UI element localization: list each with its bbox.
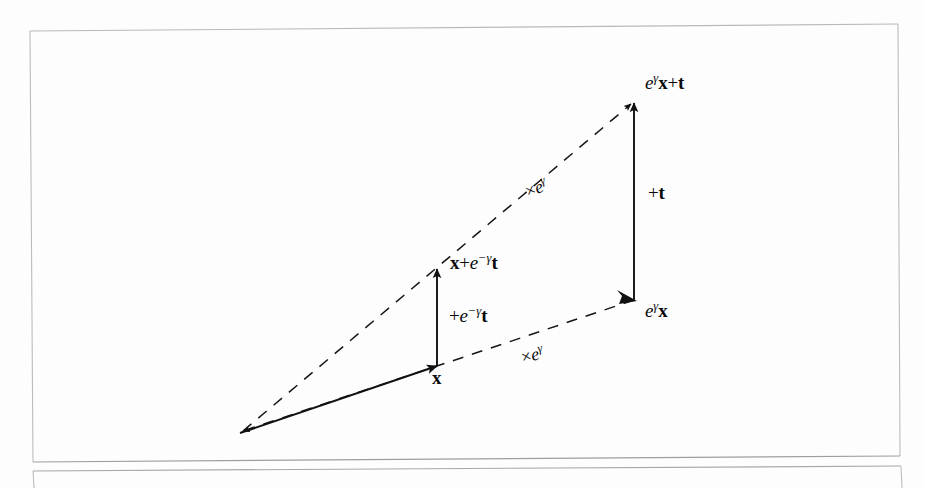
label-small-neg-gamma: −γ: [468, 304, 481, 318]
label-e-gamma-x: eγx: [645, 300, 668, 320]
label-small-plus: +: [449, 305, 460, 326]
label-final-t: t: [678, 72, 684, 93]
label-xt-plus: +: [459, 252, 470, 273]
label-final-e: e: [645, 72, 653, 93]
label-small-t: t: [481, 305, 487, 326]
label-plus-e-neg-gamma-t: +e−γt: [449, 305, 487, 325]
label-x: x: [432, 368, 441, 387]
label-small-e: e: [460, 305, 468, 326]
label-final-plus: +: [668, 72, 679, 93]
label-plus-t: +t: [648, 183, 665, 202]
label-xt-t: t: [491, 252, 497, 273]
label-e-gamma-x-plus-t: eγx+t: [645, 72, 684, 92]
label-xt-x: x: [450, 252, 459, 273]
figure-page: x eγx x+e−γt eγx+t +e−γt +t ×eγ ×eγ: [0, 0, 925, 488]
label-xt-e: e: [470, 252, 478, 273]
label-times-e-gamma-lower: ×eγ: [519, 343, 545, 367]
label-plus-t-t: t: [659, 182, 665, 203]
frame-left-rule: [30, 31, 33, 462]
label-final-x: x: [658, 72, 667, 93]
frame-bottom-rule: [33, 456, 900, 462]
label-x-text: x: [432, 367, 441, 388]
label-egx-x: x: [658, 300, 667, 321]
frame-right-rule: [898, 24, 900, 456]
label-xt-neg-gamma: −γ: [478, 251, 491, 265]
frame-top-rule: [30, 24, 898, 31]
frame-second-right-rule: [901, 466, 902, 488]
vector-diagram-canvas: [0, 0, 925, 488]
vector-origin-to-x: [240, 366, 437, 433]
frame-second-left-rule: [33, 471, 34, 488]
label-x-plus-e-neg-gamma-t: x+e−γt: [450, 252, 498, 272]
frame-second-rule: [33, 466, 901, 471]
label-egx-e: e: [645, 300, 653, 321]
label-plus-t-plus: +: [648, 182, 659, 203]
